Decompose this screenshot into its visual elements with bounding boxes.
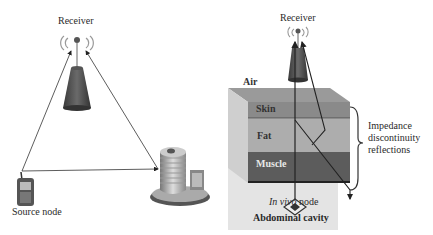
left-receiver-label: Receiver bbox=[58, 15, 94, 26]
in-vivo-rest: node bbox=[297, 196, 319, 207]
impedance-line-1: Impedance bbox=[368, 120, 420, 132]
building-icon bbox=[150, 147, 210, 206]
muscle-label: Muscle bbox=[256, 158, 287, 169]
right-receiver-label: Receiver bbox=[280, 12, 316, 23]
building-to-receiver-link bbox=[86, 51, 158, 169]
source-to-receiver-link bbox=[22, 51, 71, 171]
receiver-antenna-icon bbox=[61, 36, 94, 111]
diagram-canvas bbox=[0, 0, 433, 235]
in-vivo-italic: In vivo bbox=[269, 196, 297, 207]
skin-label: Skin bbox=[256, 103, 275, 114]
impedance-label: Impedance discontinuity reflections bbox=[368, 120, 420, 156]
abdominal-cavity-label: Abdominal cavity bbox=[253, 212, 329, 223]
source-to-building-link bbox=[22, 169, 158, 171]
fat-label: Fat bbox=[257, 130, 271, 141]
mobile-phone-icon bbox=[17, 172, 34, 206]
brace-icon bbox=[350, 107, 363, 190]
left-scenario bbox=[17, 36, 210, 206]
in-vivo-node-label: In vivo node bbox=[269, 196, 318, 207]
source-node-label: Source node bbox=[12, 206, 62, 217]
impedance-line-3: reflections bbox=[368, 144, 420, 156]
impedance-line-2: discontinuity bbox=[368, 132, 420, 144]
air-label: Air bbox=[243, 76, 257, 87]
